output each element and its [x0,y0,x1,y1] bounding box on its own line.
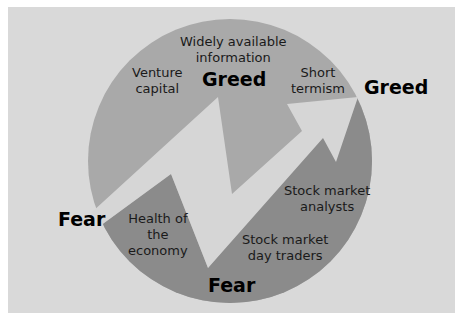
factor-line: Stock market [284,183,370,199]
factor-line: economy [128,243,188,259]
factor-line: the [128,227,188,243]
factor-line: termism [291,81,345,97]
factor-line: Widely available [180,34,287,50]
state-fear-left: Fear [58,208,105,230]
factor-line: Short [291,65,345,81]
state-fear-bottom: Fear [208,274,255,296]
factor-line: day traders [242,248,328,264]
factor-line: capital [132,81,183,97]
factor-line: analysts [284,199,370,215]
factor-short-termism: Short termism [291,65,345,97]
factor-stock-market-analysts: Stock market analysts [284,183,370,215]
factor-line: Venture [132,65,183,81]
factor-stock-market-day-traders: Stock market day traders [242,232,328,264]
factor-line: information [180,50,287,66]
factor-venture-capital: Venture capital [132,65,183,97]
state-greed-right: Greed [364,76,428,98]
factor-line: Stock market [242,232,328,248]
state-greed-top: Greed [202,68,266,90]
factor-widely-available-information: Widely available information [180,34,287,66]
factor-health-of-the-economy: Health of the economy [128,211,188,259]
factor-line: Health of [128,211,188,227]
